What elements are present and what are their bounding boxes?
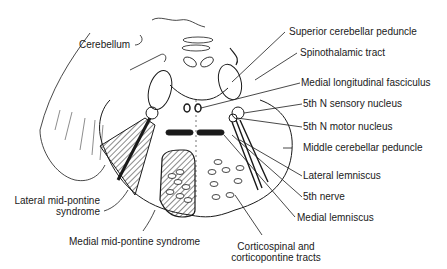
superior-cerebellar-peduncle-left [144,68,176,112]
medial-lemniscus-right [197,130,224,135]
medial-longitudinal-fasciculus-right [195,104,201,112]
label-lateral-mid-pontine-line2: syndrome [10,206,100,217]
label-middle-cerebellar-peduncle: Middle cerebellar peduncle [303,142,423,153]
label-corticospinal-line2: corticopontine tracts [226,252,326,263]
label-corticospinal-and-corticopontine-tracts: Corticospinal and corticopontine tracts [226,241,326,263]
fifth-n-sensory-nucleus-right [232,107,244,119]
lateral-mid-pontine-syndrome-region [100,118,155,195]
corticospinal-tract-bundles-right [208,160,244,200]
pons-cross-section-diagram [0,0,447,269]
label-medial-lemniscus: Medial lemniscus [297,212,374,223]
label-fifth-n-motor-nucleus: 5th N motor nucleus [303,121,393,132]
label-lateral-lemniscus: Lateral lemniscus [303,170,381,181]
label-spinothalamic-tract: Spinothalamic tract [300,47,385,58]
label-corticospinal-line1: Corticospinal and [226,241,326,252]
label-cerebellum: Cerebellum [79,39,130,50]
label-medial-longitudinal-fasciculus: Medial longitudinal fasciculus [301,77,431,88]
cerebellum-structure [40,33,166,181]
medial-lemniscus-left [166,130,193,135]
label-fifth-nerve: 5th nerve [303,191,345,202]
label-lateral-mid-pontine-line1: Lateral mid-pontine [10,195,100,206]
label-medial-mid-pontine-syndrome: Medial mid-pontine syndrome [69,236,200,247]
label-lateral-mid-pontine-syndrome: Lateral mid-pontine syndrome [10,195,100,217]
fifth-n-sensory-nucleus-left [146,107,158,119]
medial-longitudinal-fasciculus-left [184,104,190,112]
superior-cerebellar-peduncle-right [215,62,246,102]
label-fifth-n-sensory-nucleus: 5th N sensory nucleus [303,98,402,109]
label-superior-cerebellar-peduncle: Superior cerebellar peduncle [289,26,417,37]
